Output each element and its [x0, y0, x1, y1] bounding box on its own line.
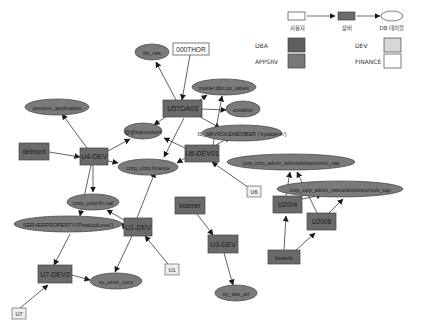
legend-table-ellipse-icon	[381, 11, 403, 21]
edge	[20, 285, 48, 308]
svg-text:U3-DEV: U3-DEV	[210, 241, 236, 248]
user-node-u1[interactable]: U1	[165, 264, 179, 275]
svg-text:creditor: creditor	[233, 107, 253, 113]
device-node-u2004[interactable]: U2004	[273, 196, 302, 213]
user-node-000thor[interactable]: 000THOR	[173, 43, 209, 55]
edge	[202, 109, 226, 110]
table-node-sy-site[interactable]: sy_site_url	[215, 285, 257, 301]
table-node-is-member[interactable]: IS_SRVROLEMEMBER ('sysadmin')	[197, 125, 286, 141]
svg-text:DEV: DEV	[355, 42, 368, 49]
legend-flow: 사용자 장비 DB 테이블	[288, 11, 404, 32]
svg-text:U2008: U2008	[312, 218, 332, 225]
svg-text:fin_res: fin_res	[143, 50, 161, 56]
svg-text:U5TDA03: U5TDA03	[167, 105, 198, 112]
device-node-u3-dev[interactable]: U3-DEV	[208, 235, 238, 253]
user-node-u7[interactable]: U7	[12, 308, 26, 319]
svg-text:corp_corp_admin_select/divisio: corp_corp_admin_select/divisionmetric_sa…	[243, 160, 340, 166]
legend-user-box-icon	[288, 12, 305, 20]
svg-text:U6: U6	[250, 189, 257, 195]
svg-text:U6-DEV01: U6-DEV01	[185, 150, 219, 157]
legend-finance-swatch	[384, 54, 401, 68]
svg-text:DBA: DBA	[255, 42, 269, 49]
legend-categories: DBA APPSRV DEV FINANCE	[255, 38, 401, 68]
legend-dba-swatch	[288, 38, 305, 52]
svg-text:pension_application: pension_application	[33, 105, 82, 111]
table-node-pension[interactable]: pension_application	[25, 99, 89, 115]
legend-dev-swatch	[384, 38, 401, 52]
svg-text:bizevb: bizevb	[275, 255, 293, 261]
svg-text:sy_site_url: sy_site_url	[223, 291, 249, 297]
svg-text:delmont: delmont	[22, 148, 45, 155]
edge	[197, 214, 213, 235]
table-node-admin-select1[interactable]: corp_corp_admin_select/divisionmetric_sa…	[227, 154, 355, 170]
user-node-u6[interactable]: U6	[247, 186, 261, 197]
device-node-u1-dev[interactable]: U1-DEV	[124, 218, 152, 236]
edge	[296, 233, 315, 250]
table-node-master-dbo[interactable]: master.dbo.spt_values	[192, 79, 256, 95]
legend-appsrv-swatch	[288, 54, 305, 68]
svg-text:corp_corp.fin.sal: corp_corp.fin.sal	[73, 200, 113, 206]
edge	[108, 139, 130, 151]
table-node-sy-error[interactable]: sy_error_corp	[90, 273, 142, 289]
svg-text:SERVERPROPERTY('ProductLevel'): SERVERPROPERTY('ProductLevel')	[23, 222, 114, 228]
edge	[107, 210, 124, 220]
svg-text:kosmer: kosmer	[179, 202, 201, 209]
edge	[164, 118, 184, 157]
device-node-u6-dev01[interactable]: U6-DEV01	[185, 145, 219, 162]
edge	[49, 152, 80, 157]
edge	[137, 172, 155, 218]
edge	[224, 253, 233, 285]
svg-text:@@transcount: @@transcount	[125, 129, 162, 135]
svg-text:U2004: U2004	[278, 201, 298, 208]
svg-text:master.dbo.spt_values: master.dbo.spt_values	[199, 85, 250, 91]
svg-text:FINANCE: FINANCE	[355, 58, 381, 65]
table-node-transaction[interactable]: @@transcount	[124, 123, 162, 139]
device-node-u2008[interactable]: U2008	[307, 213, 336, 230]
svg-text:000THOR: 000THOR	[176, 46, 206, 53]
edge	[115, 236, 132, 272]
edge	[177, 158, 185, 163]
svg-text:U1-DEV: U1-DEV	[125, 224, 151, 231]
table-node-corp-finance[interactable]: corp_corp.finance	[118, 159, 178, 175]
edge	[329, 199, 343, 213]
svg-text:U4-DEV: U4-DEV	[81, 153, 107, 160]
edge	[182, 55, 190, 100]
table-nodes: fin_res master.dbo.spt_values creditor p…	[14, 44, 403, 301]
svg-text:U7-DEV2: U7-DEV2	[40, 271, 70, 278]
table-node-creditor[interactable]: creditor	[226, 101, 260, 117]
device-node-u5tda03[interactable]: U5TDA03	[163, 100, 202, 117]
table-node-corp-fin-sal[interactable]: corp_corp.fin.sal	[67, 194, 119, 210]
edge	[164, 138, 185, 148]
table-node-admin-select2[interactable]: corp_corp_admin_select/divisioncurrculs_…	[277, 181, 403, 197]
svg-text:sy_error_corp: sy_error_corp	[99, 279, 133, 285]
device-node-u7-dev2[interactable]: U7-DEV2	[38, 265, 72, 283]
table-node-fin-res[interactable]: fin_res	[135, 44, 169, 60]
svg-text:장비: 장비	[342, 24, 352, 32]
edge	[62, 114, 87, 148]
legend-device-box-icon	[338, 12, 355, 20]
edge	[145, 236, 168, 264]
svg-text:DB 테이블: DB 테이블	[380, 24, 405, 32]
legend: 사용자 장비 DB 테이블 DBA APPSRV DEV FINANCE	[255, 11, 404, 68]
svg-text:U7: U7	[15, 311, 22, 317]
device-node-bizevb[interactable]: bizevb	[268, 250, 300, 264]
svg-text:corp_corp_admin_select/divisio: corp_corp_admin_select/divisioncurrculs_…	[290, 187, 391, 193]
svg-text:corp_corp.finance: corp_corp.finance	[126, 165, 170, 171]
svg-text:IS_SRVROLEMEMBER ('sysadmin'): IS_SRVROLEMEMBER ('sysadmin')	[197, 131, 286, 137]
device-node-delmont[interactable]: delmont	[19, 143, 49, 160]
edge	[284, 216, 286, 250]
device-node-u4-dev[interactable]: U4-DEV	[80, 148, 108, 165]
edge	[156, 62, 176, 100]
dependency-diagram: fin_res master.dbo.spt_values creditor p…	[0, 0, 432, 326]
svg-text:U1: U1	[168, 267, 175, 273]
table-node-serverproperty[interactable]: SERVERPROPERTY('ProductLevel')	[14, 216, 122, 232]
edge	[54, 234, 70, 265]
edge	[108, 161, 118, 163]
svg-text:사용자: 사용자	[290, 24, 305, 32]
svg-text:APPSRV: APPSRV	[255, 58, 279, 65]
edge	[72, 275, 90, 280]
device-node-kosmer[interactable]: kosmer	[175, 197, 205, 214]
